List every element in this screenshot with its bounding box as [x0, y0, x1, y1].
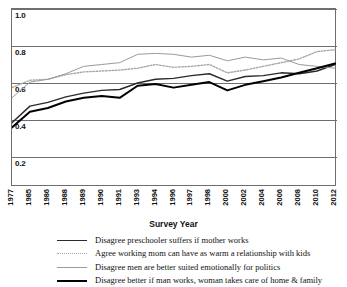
- top-edge-artifact: [0, 0, 347, 6]
- x-tick-label: 1994: [151, 189, 159, 206]
- x-tick-label: 2012: [330, 189, 338, 206]
- legend-item: Disagree better if man works, woman take…: [55, 274, 347, 287]
- series-line-0: [12, 65, 335, 123]
- line-chart: 1.00.80.60.40.2 197719851986198819891990…: [0, 0, 347, 287]
- x-tick-label: 1986: [43, 189, 51, 206]
- legend-line-swatch-icon: [55, 247, 89, 259]
- series-lines: [12, 9, 337, 187]
- x-tick-label: 1990: [97, 189, 105, 206]
- legend-item-label: Disagree men are better suited emotional…: [95, 262, 280, 272]
- legend-item-label: Agree working mom can have as warm a rel…: [95, 248, 310, 258]
- x-tick-label: 2004: [258, 189, 266, 206]
- legend-item-label: Disagree better if man works, woman take…: [95, 275, 322, 285]
- legend-item-label: Disagree preschooler suffers if mother w…: [95, 235, 249, 245]
- x-tick-label: 1991: [115, 189, 123, 206]
- legend-line-swatch-icon: [55, 274, 89, 286]
- x-tick-label: 2008: [294, 189, 302, 206]
- x-tick-label: 2002: [240, 189, 248, 206]
- x-tick-label: 2006: [276, 189, 284, 206]
- series-line-1: [12, 50, 335, 88]
- x-tick-label: 1997: [186, 189, 194, 206]
- x-tick-label: 1977: [7, 189, 15, 206]
- x-tick-label: 1989: [79, 189, 87, 206]
- x-tick-label: 1996: [169, 189, 177, 206]
- plot-area: 1.00.80.60.40.2: [11, 8, 336, 186]
- legend-line-swatch-icon: [55, 234, 89, 246]
- x-tick-label: 1998: [204, 189, 212, 206]
- legend-line-swatch-icon: [55, 261, 89, 273]
- x-tick-label: 1988: [61, 189, 69, 206]
- x-tick-label: 2000: [222, 189, 230, 206]
- chart-legend: Disagree preschooler suffers if mother w…: [55, 233, 347, 287]
- x-tick-label: 1985: [25, 189, 33, 206]
- x-tick-label: 2010: [312, 189, 320, 206]
- x-tick-label: 1993: [133, 189, 141, 206]
- legend-item: Disagree men are better suited emotional…: [55, 260, 347, 274]
- legend-item: Agree working mom can have as warm a rel…: [55, 247, 347, 261]
- legend-item: Disagree preschooler suffers if mother w…: [55, 233, 347, 247]
- x-axis-title: Survey Year: [0, 219, 347, 229]
